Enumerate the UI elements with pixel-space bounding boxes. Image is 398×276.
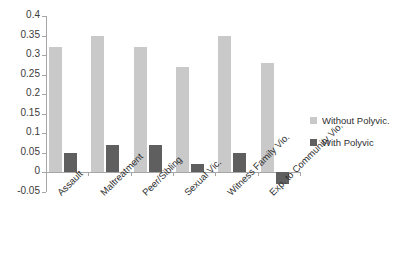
legend-swatch-icon: [310, 117, 317, 124]
chart-legend: Without Polyvic.With Polyvic: [310, 112, 398, 156]
bar: [218, 36, 231, 173]
y-axis-tick-mark: [42, 133, 46, 134]
y-axis-tick-mark: [42, 114, 46, 115]
bar: [49, 47, 62, 172]
x-axis-tick-mark: [173, 172, 174, 176]
y-axis-tick-mark: [42, 36, 46, 37]
y-axis-tick-label: 0.3: [26, 48, 40, 59]
y-axis-tick-label: -0.05: [17, 185, 40, 196]
y-axis-line: [46, 16, 47, 192]
x-axis-tick-mark: [88, 172, 89, 176]
y-axis-tick-mark: [42, 16, 46, 17]
bar: [106, 145, 119, 172]
legend-item-label: Without Polyvic.: [322, 115, 390, 126]
bar-chart: -0.0500.050.10.150.20.250.30.350.4 Assau…: [0, 0, 398, 276]
y-axis-tick-label: 0.35: [21, 29, 40, 40]
y-axis-tick-mark: [42, 192, 46, 193]
x-axis-tick-mark: [300, 172, 301, 176]
legend-swatch-icon: [310, 139, 317, 146]
y-axis-tick-label: 0.4: [26, 9, 40, 20]
y-axis-tick-label: 0.1: [26, 126, 40, 137]
y-axis-tick-mark: [42, 153, 46, 154]
y-axis-tick-label: 0.25: [21, 68, 40, 79]
y-axis-tick-label: 0: [34, 165, 40, 176]
legend-item-label: With Polyvic: [322, 137, 374, 148]
y-axis-tick-label: 0.05: [21, 146, 40, 157]
y-axis-tick-mark: [42, 94, 46, 95]
y-axis-tick-label: 0.2: [26, 87, 40, 98]
bar: [149, 145, 162, 172]
x-axis-tick-mark: [46, 172, 47, 176]
legend-item: Without Polyvic.: [310, 112, 398, 129]
bar: [91, 36, 104, 173]
legend-item: With Polyvic: [310, 134, 398, 151]
x-axis-tick-mark: [215, 172, 216, 176]
x-axis-category-label: Maltreatment: [98, 151, 145, 198]
y-axis-tick-mark: [42, 75, 46, 76]
y-axis-tick-label: 0.15: [21, 107, 40, 118]
y-axis-tick-mark: [42, 55, 46, 56]
